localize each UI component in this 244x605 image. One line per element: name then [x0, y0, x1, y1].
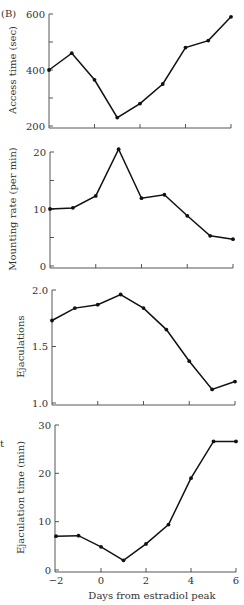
chart-panel-1: 200400600Access time (sec): [7, 9, 233, 132]
chart-panel-2: 01020Mounting rate (per min): [7, 147, 235, 272]
chart-panel-3: 1.01.52.0Ejaculations: [15, 285, 237, 409]
y-tick-label: 0: [45, 565, 51, 576]
data-point: [210, 388, 214, 392]
y-tick-label: 1.0: [32, 398, 48, 409]
series-line: [50, 149, 233, 239]
data-point: [73, 306, 77, 310]
data-point: [140, 196, 144, 200]
y-tick-label: 1.5: [32, 341, 48, 352]
y-tick-label: 200: [26, 121, 45, 132]
x-tick-label: 0: [98, 575, 104, 586]
edge-fragment-text: t: [0, 438, 4, 449]
y-tick-label: 400: [26, 65, 45, 76]
data-point: [208, 234, 212, 238]
y-tick-label: 10: [33, 204, 46, 215]
y-axis-title: Ejaculations: [15, 315, 26, 377]
data-point: [164, 328, 168, 332]
y-tick-label: 0: [40, 261, 46, 272]
data-point: [93, 78, 97, 82]
data-point: [189, 476, 193, 480]
y-tick-label: 600: [26, 9, 45, 20]
panel-label: (B): [1, 8, 16, 19]
data-point: [162, 193, 166, 197]
data-point: [187, 359, 191, 363]
data-point: [231, 237, 235, 241]
data-point: [48, 207, 52, 211]
data-point: [99, 545, 103, 549]
y-tick-label: 10: [38, 516, 51, 527]
chart-panel-4: 0102030−20246Ejaculation time (min)Days …: [15, 420, 239, 602]
data-point: [50, 319, 54, 323]
x-tick-label: 2: [143, 575, 149, 586]
data-point: [184, 46, 188, 50]
data-point: [54, 534, 58, 538]
data-point: [119, 293, 123, 297]
y-tick-label: 30: [38, 420, 51, 431]
y-tick-label: 20: [33, 147, 46, 158]
data-point: [96, 303, 100, 307]
data-point: [117, 147, 121, 151]
y-tick-label: 2.0: [32, 285, 48, 296]
y-axis-title: Access time (sec): [7, 26, 18, 115]
data-point: [234, 440, 238, 444]
x-tick-label: 6: [233, 575, 239, 586]
data-point: [185, 214, 189, 218]
data-point: [138, 102, 142, 106]
data-point: [212, 440, 216, 444]
data-point: [71, 206, 75, 210]
data-point: [70, 51, 74, 55]
data-point: [122, 558, 126, 562]
data-point: [94, 194, 98, 198]
data-point: [144, 542, 148, 546]
y-axis-title: Mounting rate (per min): [7, 147, 18, 271]
data-point: [167, 523, 171, 527]
data-point: [115, 116, 119, 120]
y-axis-title: Ejaculation time (min): [15, 441, 26, 554]
data-point: [229, 15, 233, 19]
data-point: [233, 380, 237, 384]
data-point: [142, 306, 146, 310]
figure: (B) t 200400600Access time (sec)01020Mou…: [0, 0, 244, 605]
data-point: [206, 39, 210, 43]
x-tick-label: −2: [49, 575, 64, 586]
x-tick-label: 4: [188, 575, 194, 586]
data-point: [161, 82, 165, 86]
x-axis-title: Days from estradiol peak: [88, 590, 216, 601]
y-tick-label: 20: [38, 468, 51, 479]
data-point: [77, 534, 81, 538]
data-point: [47, 68, 51, 72]
